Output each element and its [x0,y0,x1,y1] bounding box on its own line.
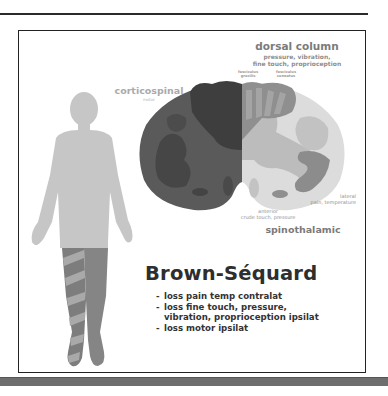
anterior-modality: crude touch, pressure [228,214,308,220]
bullet: - [156,291,164,302]
finding-item: -loss fine touch, pressure,vibration, pr… [156,302,319,323]
finding-item: -loss motor ipsilat [156,323,319,334]
human-body-icon [32,92,133,366]
spinothalamic-label: spinothalamic [248,224,358,235]
bullet: - [156,302,164,313]
fasciculus-gracilis-label: fasciculus gracilis [230,70,266,78]
bullet: - [156,323,164,334]
corticospinal-label: corticospinal [104,85,194,96]
finding-text: loss fine touch, pressure, [164,302,287,312]
dorsal-column-modalities-line2: fine touch, proprioception [226,60,368,67]
affected-leg-right [84,248,108,366]
finding-text: loss motor ipsilat [164,323,248,333]
affected-leg-left [62,248,86,366]
finding-text-continued: vibration, proprioception ipsilat [156,312,319,323]
finding-text: loss pain temp contralat [164,291,282,301]
finding-item: -loss pain temp contralat [156,291,319,302]
dorsal-column-modalities-line1: pressure, vibration, [226,53,368,60]
dorsal-column-label: dorsal column [232,40,362,52]
anterior-spinothalamic-label: anterior crude touch, pressure [228,208,308,220]
lateral-spinothalamic-label: lateral pain, temperature [296,193,356,205]
fasciculus-cuneatus-line2: cuneatus [268,74,304,78]
fasciculus-gracilis-line2: gracilis [230,74,266,78]
findings-list: -loss pain temp contralat -loss fine tou… [156,291,319,333]
dorsal-column-modalities: pressure, vibration, fine touch, proprio… [226,53,368,67]
corticospinal-modality: motor [104,97,194,102]
syndrome-title: Brown-Séquard [145,262,317,285]
lateral-modality: pain, temperature [296,199,356,205]
fasciculus-cuneatus-label: fasciculus cuneatus [268,70,304,78]
